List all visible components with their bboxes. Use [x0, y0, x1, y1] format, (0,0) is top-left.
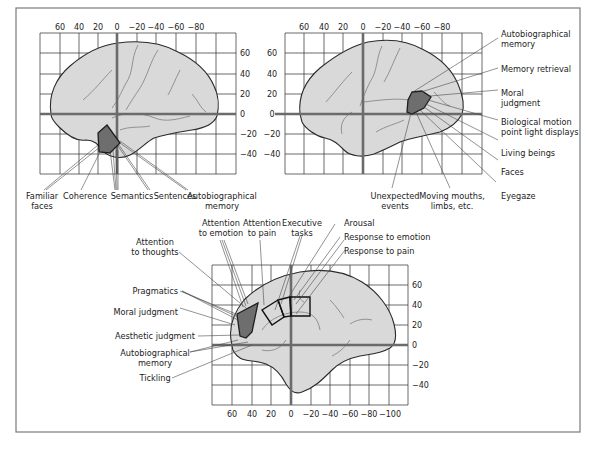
label-arousal: Arousal [344, 218, 375, 228]
x-tick: 0 [288, 410, 293, 419]
y-tick: 40 [240, 70, 250, 79]
x-tick: 20 [93, 23, 103, 32]
x-tick: 60 [55, 23, 65, 32]
label-pragmatics: Pragmatics [132, 286, 178, 296]
x-tick: 40 [74, 23, 84, 32]
y-tick: −40 [412, 381, 429, 390]
label-faces: Faces [501, 167, 524, 177]
label-response-to-emotion: Response to emotion [344, 232, 430, 242]
label-tickling: Tickling [138, 373, 170, 383]
y-tick: −40 [264, 150, 281, 159]
x-tick: 40 [247, 410, 257, 419]
y-tick: −40 [240, 150, 257, 159]
x-tick: 60 [227, 410, 237, 419]
y-tick: 40 [267, 70, 277, 79]
x-tick: 60 [299, 23, 309, 32]
brain-mapping-figure: 60 40 20 0 −20 −40 −60 −80 60 40 20 0 −2… [0, 0, 595, 451]
y-tick: 20 [240, 90, 250, 99]
label-response-to-pain: Response to pain [344, 246, 414, 256]
y-tick: 20 [412, 321, 422, 330]
label-attention-to-emotion: Attentionto emotion [199, 218, 244, 238]
label-living-beings: Living beings [501, 148, 555, 158]
x-tick: −80 [188, 23, 205, 32]
y-tick: 0 [412, 341, 417, 350]
x-axis-ticks: 60 40 20 0 −20 −40 −60 −80 −100 [227, 410, 401, 419]
x-tick: −40 [148, 23, 165, 32]
label-memory-retrieval: Memory retrieval [501, 64, 571, 74]
x-tick: 20 [338, 23, 348, 32]
label-attention-to-pain: Attentionto pain [243, 218, 281, 238]
y-tick: 0 [269, 110, 274, 119]
y-tick: 60 [412, 281, 422, 290]
x-tick: −20 [375, 23, 392, 32]
label-eyegaze: Eyegaze [501, 191, 536, 201]
x-tick: −40 [322, 410, 339, 419]
y-tick: −20 [240, 130, 257, 139]
x-tick: −60 [168, 23, 185, 32]
y-tick: 60 [240, 49, 250, 58]
x-axis-ticks: 60 40 20 0 −20 −40 −60 −80 [55, 23, 205, 32]
x-tick: −100 [379, 410, 401, 419]
y-tick: 0 [240, 110, 245, 119]
label-attention-to-thoughts: Attentionto thoughts [131, 237, 178, 257]
x-tick: −60 [342, 410, 359, 419]
y-tick: 20 [267, 90, 277, 99]
y-tick: −20 [412, 361, 429, 370]
label-coherence: Coherence [63, 191, 107, 201]
label-moral-judgment: Moral judgment [113, 307, 178, 317]
x-tick: −20 [129, 23, 146, 32]
label-semantics: Semantics [111, 191, 154, 201]
x-tick: 0 [114, 23, 119, 32]
x-tick: −20 [303, 410, 320, 419]
label-aesthetic-judgment: Aesthetic judgment [115, 331, 196, 341]
x-tick: 40 [319, 23, 329, 32]
label-biological-motion: Biological motionpoint light displays [501, 117, 579, 137]
x-tick: 20 [266, 410, 276, 419]
y-tick: 40 [412, 301, 422, 310]
y-tick: 60 [267, 49, 277, 58]
x-tick: −80 [434, 23, 451, 32]
y-tick: −20 [264, 130, 281, 139]
x-tick: −80 [361, 410, 378, 419]
x-axis-ticks: 60 40 20 0 −20 −40 −60 −80 [299, 23, 451, 32]
x-tick: −40 [394, 23, 411, 32]
x-tick: 0 [360, 23, 365, 32]
x-tick: −60 [414, 23, 431, 32]
